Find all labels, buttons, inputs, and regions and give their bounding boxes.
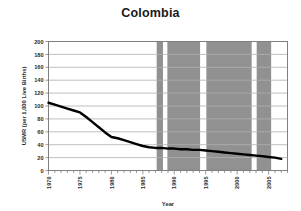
axis-titles: YearU5MR (per 1,000 Live Births) [21, 67, 175, 207]
x-tick-label: 1980 [109, 177, 115, 189]
y-tick-label: 200 [34, 39, 43, 45]
x-axis-title: Year [162, 201, 175, 207]
y-tick-label: 60 [37, 129, 43, 135]
y-tick-label: 140 [34, 77, 43, 83]
y-tick-label: 80 [37, 116, 43, 122]
y-tick-label: 0 [40, 168, 43, 174]
x-tick-label: 1970 [46, 177, 52, 189]
x-tick-label: 1985 [140, 177, 146, 189]
x-tick-label: 2005 [266, 177, 272, 189]
chart-plot-area: 020406080100120140160180200 197019751980… [0, 0, 301, 211]
y-tick-label: 40 [37, 142, 43, 148]
y-tick-label: 160 [34, 64, 43, 70]
x-tick-label: 2000 [234, 177, 240, 189]
chart-container: Colombia 020406080100120140160180200 197… [0, 0, 301, 211]
x-tick-label: 1995 [203, 177, 209, 189]
x-tick-label: 1975 [77, 177, 83, 189]
y-tick-label: 20 [37, 155, 43, 161]
y-tick-label: 120 [34, 90, 43, 96]
x-tick-label: 1990 [171, 177, 177, 189]
y-tick-label: 180 [34, 52, 43, 58]
x-axis-tick-labels: 19701975198019851990199520002005 [46, 177, 272, 189]
y-axis-tick-labels: 020406080100120140160180200 [34, 39, 43, 174]
y-axis-title: U5MR (per 1,000 Live Births) [21, 67, 27, 146]
y-tick-label: 100 [34, 103, 43, 109]
